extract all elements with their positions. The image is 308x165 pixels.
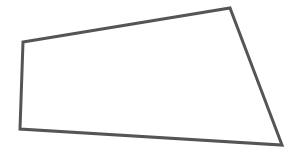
quadrilateral-shape <box>20 8 282 145</box>
diagram-canvas <box>0 0 308 165</box>
diagram-svg <box>0 0 308 165</box>
